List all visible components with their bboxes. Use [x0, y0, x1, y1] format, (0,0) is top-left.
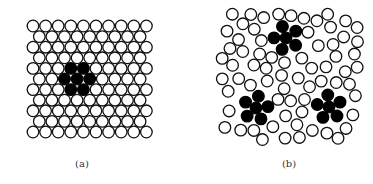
- disc: [103, 84, 115, 96]
- panel-b-label: (b): [282, 158, 296, 169]
- disc: [90, 105, 102, 117]
- disc: [34, 116, 46, 128]
- disc: [128, 20, 140, 32]
- cluster-disc: [262, 101, 274, 113]
- disc: [141, 105, 153, 117]
- cluster-disc: [59, 73, 71, 85]
- disc: [46, 116, 58, 128]
- disc: [90, 84, 102, 96]
- disc: [84, 52, 96, 64]
- disc: [46, 73, 58, 85]
- disc: [40, 63, 52, 75]
- disc: [141, 84, 153, 96]
- disc: [285, 10, 297, 22]
- disc: [115, 126, 127, 138]
- disc: [34, 73, 46, 85]
- disc: [109, 31, 121, 43]
- disc: [40, 126, 52, 138]
- disc: [27, 84, 39, 96]
- disc: [115, 20, 127, 32]
- disc: [59, 31, 71, 43]
- disc: [257, 134, 269, 146]
- disc: [71, 94, 83, 106]
- cluster-disc: [317, 112, 329, 124]
- disc: [237, 46, 249, 58]
- disc: [78, 41, 90, 53]
- disc: [311, 15, 323, 27]
- disc: [347, 109, 359, 121]
- disc: [273, 8, 285, 20]
- disc: [134, 94, 146, 106]
- disc: [141, 63, 153, 75]
- disc: [306, 62, 318, 74]
- disc: [52, 20, 64, 32]
- disc: [279, 57, 291, 69]
- disc: [40, 84, 52, 96]
- disc: [248, 23, 260, 35]
- panel-b-disordered-packing: [216, 8, 363, 145]
- disc: [258, 12, 270, 24]
- cluster-disc: [276, 44, 288, 56]
- cluster-disc: [277, 21, 289, 33]
- disc: [227, 8, 239, 20]
- disc: [266, 52, 278, 64]
- cluster-disc: [290, 25, 302, 37]
- disc: [65, 105, 77, 117]
- disc: [291, 119, 303, 131]
- disc: [84, 116, 96, 128]
- disc: [223, 105, 235, 117]
- disc: [330, 77, 342, 89]
- disc: [71, 31, 83, 43]
- cluster-disc: [322, 89, 334, 101]
- disc: [339, 66, 351, 78]
- disc: [46, 94, 58, 106]
- disc: [320, 61, 332, 73]
- disc: [71, 52, 83, 64]
- disc: [338, 31, 350, 43]
- cluster-disc: [331, 110, 343, 122]
- disc: [221, 25, 233, 37]
- disc: [256, 35, 268, 47]
- disc: [128, 41, 140, 53]
- disc: [97, 94, 109, 106]
- cluster-disc: [311, 99, 323, 111]
- cluster-disc: [255, 113, 267, 125]
- disc: [103, 126, 115, 138]
- disc: [103, 41, 115, 53]
- disc: [103, 105, 115, 117]
- disc: [90, 41, 102, 53]
- disc: [279, 132, 291, 144]
- disc: [128, 63, 140, 75]
- disc: [304, 81, 316, 93]
- disc: [321, 127, 333, 139]
- cluster-disc: [268, 32, 280, 44]
- disc: [128, 105, 140, 117]
- disc: [299, 94, 311, 106]
- disc: [245, 79, 257, 91]
- disc: [272, 94, 284, 106]
- disc: [109, 52, 121, 64]
- disc: [313, 40, 325, 52]
- disc: [27, 126, 39, 138]
- disc: [27, 105, 39, 117]
- disc: [84, 31, 96, 43]
- disc: [134, 52, 146, 64]
- disc: [327, 39, 339, 51]
- disc: [65, 126, 77, 138]
- disc: [115, 41, 127, 53]
- disc: [315, 75, 327, 87]
- cluster-disc: [84, 73, 96, 85]
- disc: [65, 20, 77, 32]
- cluster-disc: [241, 110, 253, 122]
- disc: [78, 126, 90, 138]
- panel-a-label: (a): [75, 158, 89, 169]
- disc: [340, 123, 352, 135]
- disc: [90, 126, 102, 138]
- disc: [27, 63, 39, 75]
- disc: [322, 8, 334, 20]
- disc: [128, 126, 140, 138]
- disc: [344, 78, 356, 90]
- figure-canvas: [0, 0, 373, 184]
- disc: [276, 70, 288, 82]
- disc: [280, 110, 292, 122]
